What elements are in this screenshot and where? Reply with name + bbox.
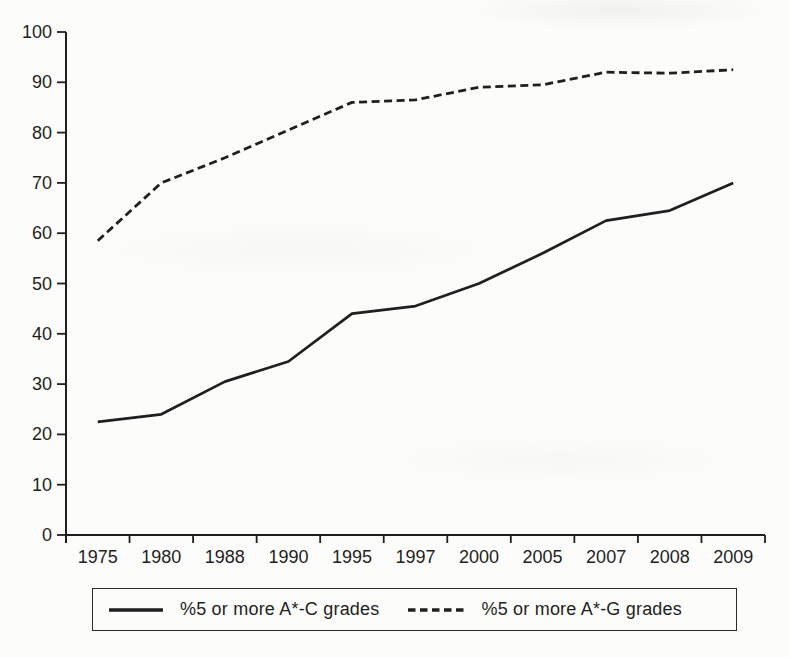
chart-legend: %5 or more A*-C grades %5 or more A*-G g… xyxy=(92,588,737,631)
x-tick-label: 2005 xyxy=(523,547,563,567)
x-tick-label: 1975 xyxy=(78,547,118,567)
y-tick-label: 30 xyxy=(32,374,52,394)
y-tick-label: 100 xyxy=(22,22,52,42)
y-tick-label: 40 xyxy=(32,324,52,344)
legend-item-ag: %5 or more A*-G grades xyxy=(407,599,681,620)
x-tick-label: 2008 xyxy=(650,547,690,567)
series-line-a-c-grades xyxy=(98,183,733,422)
y-tick-label: 10 xyxy=(32,475,52,495)
x-tick-label: 2000 xyxy=(459,547,499,567)
line-chart: 0102030405060708090100197519801988199019… xyxy=(0,0,789,657)
legend-label-ac: %5 or more A*-C grades xyxy=(180,599,379,620)
y-tick-label: 80 xyxy=(32,123,52,143)
y-tick-label: 90 xyxy=(32,72,52,92)
x-tick-label: 1995 xyxy=(332,547,372,567)
y-tick-label: 20 xyxy=(32,424,52,444)
dashed-line-swatch-icon xyxy=(407,606,465,614)
x-tick-label: 2009 xyxy=(713,547,753,567)
legend-label-ag: %5 or more A*-G grades xyxy=(481,599,681,620)
y-tick-label: 70 xyxy=(32,173,52,193)
solid-line-swatch-icon xyxy=(108,606,164,614)
x-tick-label: 1988 xyxy=(205,547,245,567)
legend-item-ac: %5 or more A*-C grades xyxy=(108,599,379,620)
y-tick-label: 50 xyxy=(32,274,52,294)
x-tick-label: 2007 xyxy=(586,547,626,567)
y-tick-label: 0 xyxy=(42,525,52,545)
x-tick-label: 1980 xyxy=(141,547,181,567)
scanned-chart-page: 0102030405060708090100197519801988199019… xyxy=(0,0,789,657)
x-tick-label: 1997 xyxy=(395,547,435,567)
x-tick-label: 1990 xyxy=(268,547,308,567)
y-tick-label: 60 xyxy=(32,223,52,243)
